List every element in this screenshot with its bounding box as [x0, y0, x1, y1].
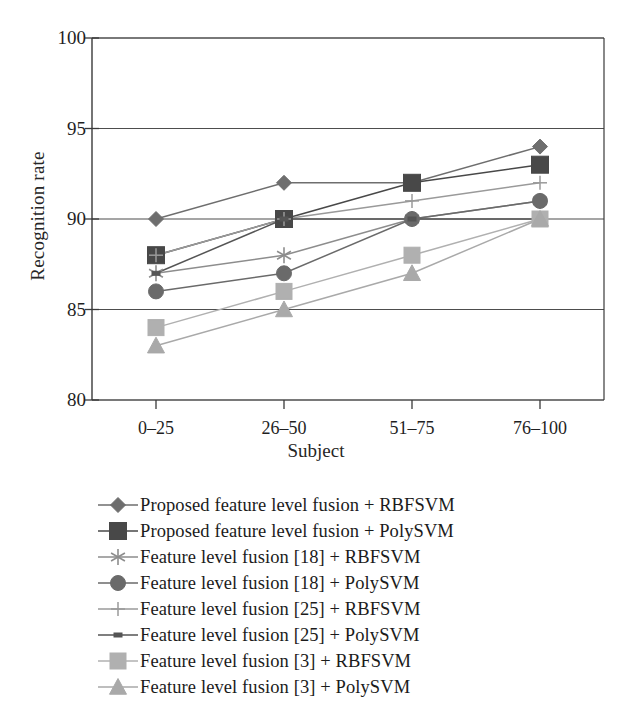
series-0: [156, 147, 540, 219]
data-point-6-2: [404, 247, 420, 263]
data-point-4-2: [405, 194, 419, 208]
legend-marker-plus-icon: [96, 596, 140, 622]
legend-marker-square-light-icon: [96, 648, 140, 674]
legend-marker-svg: [96, 492, 140, 518]
data-point-7-1: [276, 301, 293, 317]
legend-label: Proposed feature level fusion + PolySVM: [140, 521, 454, 542]
series-line-7: [156, 219, 540, 346]
series-line-0: [156, 147, 540, 219]
data-point-0-0: [149, 212, 164, 227]
legend-marker-svg: [96, 674, 140, 700]
data-point-6-1: [276, 283, 292, 299]
legend-marker-dash-icon: [96, 622, 140, 648]
data-point-3-1: [277, 266, 292, 281]
series-7: [156, 219, 540, 346]
x-tick-label-3: 76–100: [513, 418, 567, 439]
data-point-5-2: [408, 217, 416, 221]
legend-marker-svg: [96, 570, 140, 596]
series-6: [156, 219, 540, 328]
legend-label: Proposed feature level fusion + RBFSVM: [140, 495, 455, 516]
data-point-7-2: [404, 265, 421, 281]
data-point-0-1: [277, 175, 292, 190]
legend-label: Feature level fusion [3] + RBFSVM: [140, 651, 411, 672]
data-point-4-3: [533, 176, 547, 190]
legend-item-0[interactable]: Proposed feature level fusion + RBFSVM: [96, 492, 556, 518]
legend-item-5[interactable]: Feature level fusion [25] + PolySVM: [96, 622, 556, 648]
data-point-6-0: [148, 320, 164, 336]
series-line-6: [156, 219, 540, 328]
x-tick-label-2: 51–75: [390, 418, 435, 439]
chart-legend: Proposed feature level fusion + RBFSVMPr…: [96, 492, 556, 700]
data-point-1-2: [404, 174, 421, 191]
legend-item-1[interactable]: Proposed feature level fusion + PolySVM: [96, 518, 556, 544]
data-point-legend-1: [110, 523, 127, 540]
data-point-7-0: [148, 337, 165, 353]
legend-marker-circle-icon: [96, 570, 140, 596]
recognition-rate-figure: Recognition rate 80859095100 0–2526–5051…: [0, 0, 632, 719]
legend-marker-svg: [96, 544, 140, 570]
legend-label: Feature level fusion [25] + PolySVM: [140, 625, 420, 646]
legend-marker-svg: [96, 622, 140, 648]
data-point-legend-3: [111, 576, 126, 591]
x-tick-label-1: 26–50: [262, 418, 307, 439]
legend-item-4[interactable]: Feature level fusion [25] + RBFSVM: [96, 596, 556, 622]
legend-label: Feature level fusion [18] + RBFSVM: [140, 547, 421, 568]
data-point-1-3: [532, 156, 549, 173]
series-line-3: [156, 201, 540, 292]
data-point-legend-0: [111, 498, 126, 513]
data-point-legend-6: [110, 653, 126, 669]
data-point-legend-5: [114, 633, 122, 637]
data-point-3-0: [149, 284, 164, 299]
legend-item-7[interactable]: Feature level fusion [3] + PolySVM: [96, 674, 556, 700]
legend-item-6[interactable]: Feature level fusion [3] + RBFSVM: [96, 648, 556, 674]
legend-label: Feature level fusion [25] + RBFSVM: [140, 599, 421, 620]
data-point-5-0: [152, 271, 160, 275]
legend-item-2[interactable]: Feature level fusion [18] + RBFSVM: [96, 544, 556, 570]
chart-svg: [0, 0, 632, 470]
series-3: [156, 201, 540, 292]
plot-area: Recognition rate 80859095100 0–2526–5051…: [0, 0, 632, 470]
legend-marker-triangle-icon: [96, 674, 140, 700]
legend-marker-svg: [96, 518, 140, 544]
series-2: [156, 201, 540, 273]
x-axis-label: Subject: [0, 440, 632, 462]
data-point-0-3: [533, 139, 548, 154]
data-point-legend-4: [111, 602, 125, 616]
legend-marker-svg: [96, 648, 140, 674]
data-point-5-1: [280, 217, 288, 221]
legend-marker-diamond-icon: [96, 492, 140, 518]
data-point-3-3: [533, 193, 548, 208]
x-tick-label-0: 0–25: [138, 418, 174, 439]
legend-label: Feature level fusion [18] + PolySVM: [140, 573, 420, 594]
legend-item-3[interactable]: Feature level fusion [18] + PolySVM: [96, 570, 556, 596]
legend-marker-asterisk-icon: [96, 544, 140, 570]
legend-marker-square-icon: [96, 518, 140, 544]
legend-marker-svg: [96, 596, 140, 622]
legend-label: Feature level fusion [3] + PolySVM: [140, 677, 410, 698]
series-line-2: [156, 201, 540, 273]
